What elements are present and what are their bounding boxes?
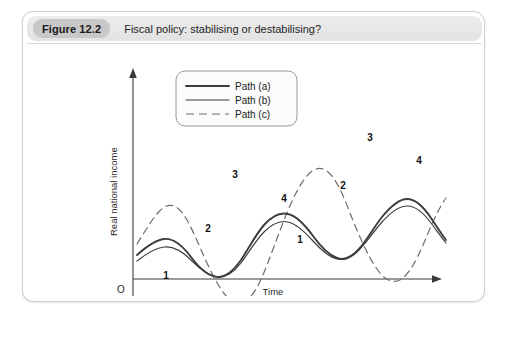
figure-title: Fiscal policy: stabilising or destabilis… <box>124 23 321 35</box>
y-axis-arrowhead <box>129 68 137 78</box>
annotation-3b: 3 <box>367 132 373 143</box>
header-divider <box>27 43 482 44</box>
y-axis-label: Real national income <box>108 147 119 236</box>
annotation-3a: 3 <box>232 169 238 180</box>
figure-card: Figure 12.2 Fiscal policy: stabilising o… <box>22 11 485 302</box>
annotation-2b: 2 <box>340 180 346 191</box>
legend-label-path-b: Path (b) <box>235 95 271 106</box>
curve-path-c <box>137 168 446 296</box>
chart-plot-area: Real national income Time O 1 2 3 4 1 2 … <box>57 48 453 296</box>
x-axis-arrowhead <box>432 275 442 283</box>
origin-label: O <box>117 284 125 295</box>
y-axis <box>129 68 137 296</box>
figure-number-badge: Figure 12.2 <box>33 19 110 38</box>
legend-label-path-c: Path (c) <box>235 109 270 120</box>
annotation-2a: 2 <box>205 223 211 234</box>
figure-header-bar: Figure 12.2 Fiscal policy: stabilising o… <box>27 16 482 41</box>
annotation-1b: 1 <box>297 234 303 245</box>
legend-label-path-a: Path (a) <box>235 81 271 92</box>
curve-path-a <box>137 199 446 277</box>
x-axis-label: Time <box>263 286 284 296</box>
fiscal-policy-line-chart: Real national income Time O 1 2 3 4 1 2 … <box>57 48 453 296</box>
annotation-4b: 4 <box>416 155 422 166</box>
curve-path-b <box>137 206 446 277</box>
chart-legend: Path (a) Path (b) Path (c) <box>176 71 297 126</box>
annotation-4a: 4 <box>281 193 287 204</box>
annotation-1a: 1 <box>163 270 169 281</box>
